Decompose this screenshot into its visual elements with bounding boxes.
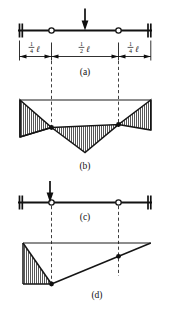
panel-label-a: (a) bbox=[80, 67, 91, 78]
zero-moment-node-left-b bbox=[49, 125, 54, 130]
figure-root: 1 4 ℓ 1 2 ℓ 1 4 ℓ (a) bbox=[0, 0, 172, 309]
dimension-label-center: 1 2 ℓ bbox=[79, 41, 90, 54]
load-arrow-c-icon bbox=[47, 181, 54, 203]
dimension-label-left: 1 4 ℓ bbox=[29, 41, 40, 54]
panel-d: (d) bbox=[23, 238, 151, 301]
dim-center-denominator: 2 bbox=[80, 48, 83, 54]
panel-label-c: (c) bbox=[80, 212, 91, 223]
dimension-label-right: 1 4 ℓ bbox=[128, 41, 139, 54]
load-arrow-a-icon bbox=[82, 9, 89, 31]
panel-b: (b) bbox=[20, 96, 151, 172]
dim-center-symbol: ℓ bbox=[86, 44, 90, 54]
zero-moment-node-right-b bbox=[116, 122, 121, 127]
zero-moment-node-left-d bbox=[49, 282, 54, 287]
panel-label-b: (b) bbox=[79, 161, 90, 172]
hinge-right-c-icon bbox=[116, 200, 121, 205]
moment-edge-d-right bbox=[52, 243, 151, 284]
dim-center-numerator: 1 bbox=[80, 41, 83, 47]
hinge-left-icon bbox=[49, 28, 54, 33]
dim-right-symbol: ℓ bbox=[135, 44, 139, 54]
hinge-right-icon bbox=[116, 28, 121, 33]
dim-right-denominator: 4 bbox=[129, 48, 132, 54]
dim-left-numerator: 1 bbox=[30, 41, 33, 47]
panel-label-d: (d) bbox=[91, 290, 102, 301]
dim-right-numerator: 1 bbox=[129, 41, 132, 47]
panel-a: 1 4 ℓ 1 2 ℓ 1 4 ℓ (a) bbox=[18, 9, 152, 78]
dim-left-symbol: ℓ bbox=[36, 44, 40, 54]
zero-moment-node-right-d bbox=[116, 254, 121, 259]
hatch-b-center bbox=[54, 118, 118, 158]
moment-edge-d-left bbox=[23, 243, 52, 284]
panel-c: (c) bbox=[18, 181, 152, 223]
beam-moment-figure: 1 4 ℓ 1 2 ℓ 1 4 ℓ (a) bbox=[0, 0, 172, 309]
hatch-b-right bbox=[121, 96, 149, 136]
dim-left-denominator: 4 bbox=[30, 48, 33, 54]
